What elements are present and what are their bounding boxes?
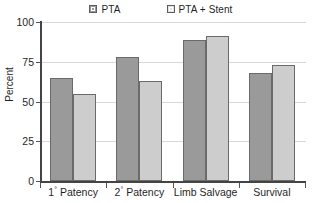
bar (116, 57, 139, 181)
bar (50, 78, 73, 181)
chart-legend: PTA PTA + Stent (0, 0, 322, 18)
legend-label-pta: PTA (101, 4, 120, 15)
bar (249, 73, 272, 181)
y-tick-label: 100 (16, 16, 34, 28)
y-tick-label: 50 (22, 96, 34, 108)
y-axis-title: Percent (4, 50, 15, 120)
x-tick-mark (305, 183, 306, 188)
bar (73, 94, 96, 181)
light-gray-swatch-icon (167, 5, 175, 13)
y-tick-label: 75 (22, 56, 34, 68)
bar-chart: PTA PTA + Stent Percent 0255075100 1° Pa… (0, 0, 322, 203)
x-axis-label: Survival (253, 186, 290, 198)
x-axis-label: Limb Salvage (174, 186, 238, 198)
bar (183, 40, 206, 182)
legend-entry-pta-stent: PTA + Stent (167, 4, 233, 15)
y-tick-label: 0 (28, 175, 34, 187)
plot-area: 0255075100 (40, 22, 305, 181)
y-tick-mark (36, 181, 40, 182)
bars-layer (40, 22, 305, 181)
bar (206, 36, 229, 181)
legend-label-pta-stent: PTA + Stent (179, 4, 233, 15)
legend-entry-pta: PTA (89, 4, 120, 15)
x-axis-label: 1° Patency (48, 186, 98, 198)
x-axis-labels: 1° Patency2° PatencyLimb SalvageSurvival (40, 186, 305, 202)
bar (139, 81, 162, 181)
dark-gray-swatch-icon (89, 5, 97, 13)
x-axis-label: 2° Patency (115, 186, 165, 198)
y-tick-label: 25 (22, 135, 34, 147)
bar (272, 65, 295, 181)
